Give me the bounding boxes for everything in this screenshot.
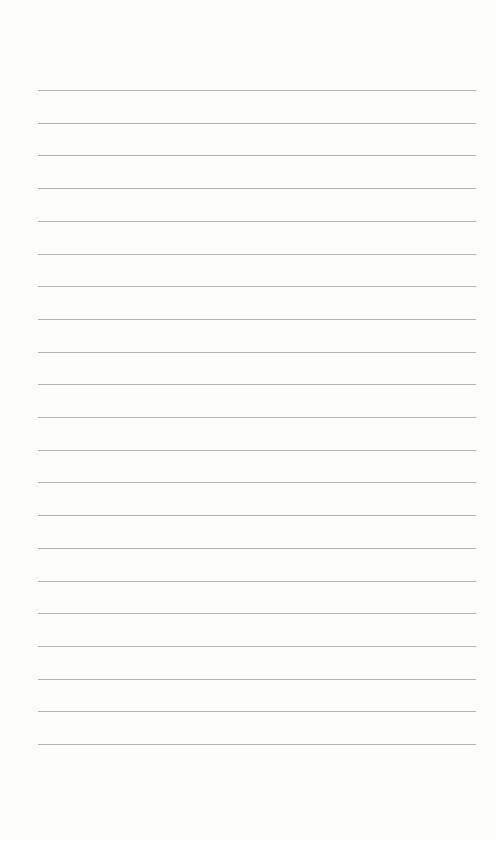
ruled-line [38,417,476,418]
ruled-line [38,384,476,385]
ruled-line [38,155,476,156]
ruled-line [38,711,476,712]
ruled-line [38,90,476,91]
ruled-line [38,515,476,516]
ruled-line [38,254,476,255]
ruled-line [38,482,476,483]
ruled-line [38,548,476,549]
ruled-line [38,221,476,222]
ruled-line [38,188,476,189]
ruled-line [38,679,476,680]
ruled-line [38,450,476,451]
ruled-line [38,286,476,287]
ruled-line [38,319,476,320]
ruled-line [38,744,476,745]
ruled-line [38,123,476,124]
ruled-line [38,646,476,647]
lined-paper-page [0,0,497,841]
ruled-line [38,352,476,353]
ruled-line [38,581,476,582]
ruled-line [38,613,476,614]
